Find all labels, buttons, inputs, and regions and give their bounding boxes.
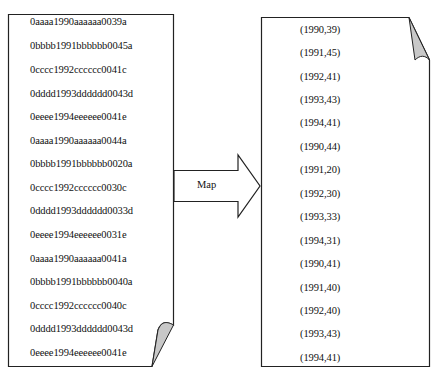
input-line: 0dddd1993dddddd0043d xyxy=(30,88,133,99)
output-line: (1993,33) xyxy=(300,211,340,222)
input-line: 0eeee1994eeeeee0031e xyxy=(30,229,127,240)
output-line: (1991,45) xyxy=(300,47,340,58)
output-line: (1991,20) xyxy=(300,164,340,175)
input-line: 0cccc1992cccccc0041c xyxy=(30,64,127,75)
output-line: (1990,41) xyxy=(300,258,340,269)
output-line: (1993,43) xyxy=(300,94,340,105)
input-line: 0bbbb1991bbbbbb0040a xyxy=(30,276,132,287)
input-line: 0bbbb1991bbbbbb0045a xyxy=(30,40,132,51)
input-line: 0cccc1992cccccc0040c xyxy=(30,300,127,311)
output-line: (1994,41) xyxy=(300,117,340,128)
output-line: (1992,30) xyxy=(300,188,340,199)
output-line: (1994,31) xyxy=(300,235,340,246)
input-line: 0cccc1992cccccc0030c xyxy=(30,182,127,193)
input-line: 0aaaa1990aaaaaa0041a xyxy=(30,253,127,264)
input-line: 0dddd1993dddddd0033d xyxy=(30,205,133,216)
input-line: 0aaaa1990aaaaaa0044a xyxy=(30,135,127,146)
input-line: 0dddd1993dddddd0043d xyxy=(30,323,133,334)
output-line: (1990,39) xyxy=(300,24,340,35)
map-diagram: Map 0aaaa1990aaaaaa0039a 0bbbb1991bbbbbb… xyxy=(0,0,439,378)
map-arrow-icon xyxy=(174,155,260,217)
output-line: (1993,43) xyxy=(300,328,340,339)
output-line: (1990,44) xyxy=(300,141,340,152)
input-line: 0eeee1994eeeeee0041e xyxy=(30,347,127,358)
output-line: (1992,41) xyxy=(300,71,340,82)
input-line: 0aaaa1990aaaaaa0039a xyxy=(30,16,127,27)
input-line: 0bbbb1991bbbbbb0020a xyxy=(30,158,132,169)
input-line: 0eeee1994eeeeee0041e xyxy=(30,111,127,122)
output-line: (1991,40) xyxy=(300,282,340,293)
output-line: (1994,41) xyxy=(300,352,340,363)
output-document-shape xyxy=(262,18,430,367)
output-line: (1992,40) xyxy=(300,305,340,316)
map-arrow-label: Map xyxy=(197,179,216,190)
